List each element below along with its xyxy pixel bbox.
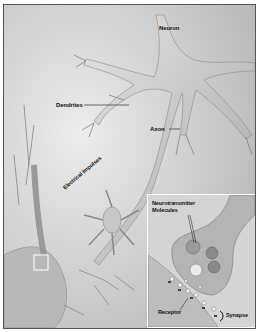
vesicle (186, 240, 200, 254)
label-neuron: Neuron (159, 25, 179, 32)
illustration-frame: Neuron Dendrites Axon Electrical Impulse… (3, 4, 256, 329)
label-synapse: Synapse (226, 312, 248, 319)
releasing-vesicle (190, 264, 202, 276)
label-molecules: Molecules (152, 207, 178, 214)
label-receptor: Receptor (158, 309, 181, 316)
vesicle (206, 247, 218, 259)
synapse-inset: Neurotransmitter Molecules Receptor Syna… (147, 194, 256, 328)
synapse-artwork (148, 195, 255, 327)
label-axon: Axon (150, 126, 165, 133)
label-neurotransmitter: Neurotransmitter (152, 200, 195, 207)
label-dendrites: Dendrites (56, 102, 83, 109)
vesicle (208, 261, 220, 273)
